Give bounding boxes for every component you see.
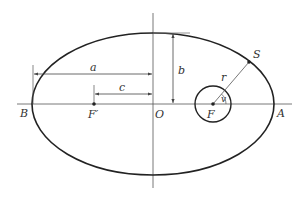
label-A: A [276,107,285,120]
label-F: F [206,108,215,121]
ellipse-orbit-diagram: a c b r S B F′ O F A v [0,0,305,198]
focus-right-point [211,102,215,106]
satellite-point [247,60,251,64]
label-O: O [155,108,164,121]
radius-line [213,62,249,104]
label-nu: v [221,94,226,104]
label-B: B [19,107,28,120]
label-r: r [221,71,227,84]
diagram-canvas: a c b r S B F′ O F A v [0,0,305,198]
label-b: b [178,64,185,77]
label-c: c [119,81,125,94]
label-a: a [90,61,97,74]
label-S: S [253,48,261,61]
label-F-prime: F′ [87,108,99,121]
focus-left-point [92,102,96,106]
